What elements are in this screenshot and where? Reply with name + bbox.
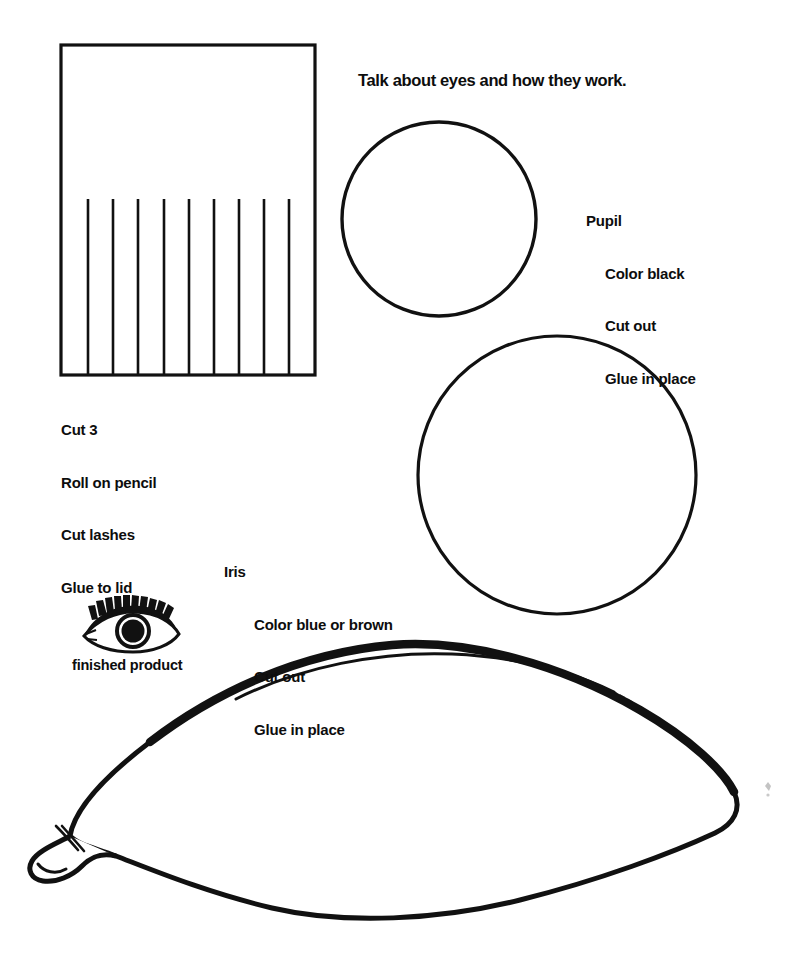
scan-speck: [765, 782, 771, 797]
iris-step-2: Cut out: [224, 668, 393, 686]
pupil-step-3: Glue in place: [586, 370, 696, 388]
worksheet-page: Talk about eyes and how they work. Pupil…: [0, 0, 787, 955]
pupil-circle: [342, 122, 536, 316]
iris-step-1: Color blue or brown: [224, 616, 393, 634]
lashes-step-4: Glue to lid: [61, 579, 157, 597]
eye-outline-body: [70, 644, 737, 918]
lashes-step-2: Roll on pencil: [61, 474, 157, 492]
lashes-step-3: Cut lashes: [61, 526, 157, 544]
iris-label: Iris: [224, 563, 393, 581]
strip-cut-lines: [88, 199, 289, 374]
pupil-instructions: Pupil Color black Cut out Glue in place: [586, 177, 696, 422]
pupil-label: Pupil: [586, 212, 696, 230]
finished-product-caption: finished product: [72, 657, 182, 673]
lashes-step-1: Cut 3: [61, 421, 157, 439]
iris-instructions: Iris Color blue or brown Cut out Glue in…: [224, 528, 393, 773]
page-title: Talk about eyes and how they work.: [358, 71, 626, 90]
pupil-step-1: Color black: [586, 265, 696, 283]
eyelash-strip-rectangle: [61, 45, 315, 375]
lashes-instructions: Cut 3 Roll on pencil Cut lashes Glue to …: [61, 386, 157, 631]
iris-step-3: Glue in place: [224, 721, 393, 739]
pupil-step-2: Cut out: [586, 317, 696, 335]
